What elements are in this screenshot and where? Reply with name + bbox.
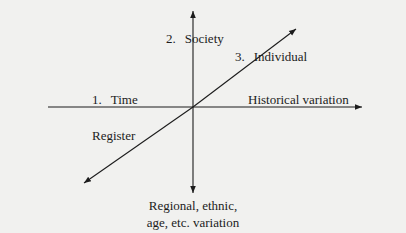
society-name: Society <box>185 31 224 46</box>
historical-variation-label: Historical variation <box>248 93 349 107</box>
time-number: 1. <box>92 93 102 107</box>
individual-number: 3. <box>235 50 245 64</box>
register-label: Register <box>92 129 135 143</box>
regional-variation-line1: Regional, ethnic, <box>133 197 253 214</box>
time-label: 1.Time <box>92 93 138 107</box>
society-label: 2.Society <box>166 32 224 46</box>
individual-label: 3.Individual <box>235 50 307 64</box>
regional-variation-label: Regional, ethnic, age, etc. variation <box>133 197 253 231</box>
individual-name: Individual <box>254 49 307 64</box>
time-name: Time <box>111 92 138 107</box>
individual-axis-down <box>84 107 193 183</box>
regional-variation-line2: age, etc. variation <box>133 214 253 231</box>
society-number: 2. <box>166 32 176 46</box>
